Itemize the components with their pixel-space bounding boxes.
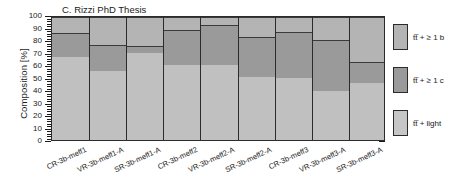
y-tick-label: 90 xyxy=(16,24,42,33)
chart-legend: tt̅ + ≥ 1 btt̅ + ≥ 1 ctt̅ + light xyxy=(393,18,454,144)
legend-item: tt̅ + light xyxy=(393,104,441,142)
bar-segment xyxy=(313,17,349,40)
y-tick-label: 40 xyxy=(16,86,42,95)
bar-segment xyxy=(127,53,163,141)
bar-column xyxy=(52,17,89,140)
bar-segment xyxy=(276,17,312,32)
y-tick-mark-right xyxy=(379,141,385,142)
legend-label: tt̅ + ≥ 1 b xyxy=(413,33,444,42)
legend-swatch xyxy=(393,110,408,136)
legend-label: tt̅ + ≥ 1 c xyxy=(413,76,444,85)
chart-title: C. Rizzi PhD Thesis xyxy=(62,4,146,15)
y-tick-label: 10 xyxy=(16,124,42,133)
y-tick-label: 60 xyxy=(16,61,42,70)
bar-segment xyxy=(350,17,385,62)
y-tick-label: 0 xyxy=(16,136,42,145)
bar-segment xyxy=(127,17,163,46)
bar-column xyxy=(89,17,126,140)
y-axis-label: Composition [%] xyxy=(18,14,29,154)
bar-column xyxy=(349,17,385,140)
legend-swatch xyxy=(393,24,408,50)
bar-segment xyxy=(350,62,385,83)
y-tick-mark xyxy=(45,141,51,142)
bar-column xyxy=(275,17,312,140)
bar-segment xyxy=(201,65,237,142)
bar-segment xyxy=(201,17,237,25)
legend-item: tt̅ + ≥ 1 b xyxy=(393,18,444,56)
legend-label: tt̅ + light xyxy=(413,119,441,128)
bar-segment xyxy=(313,40,349,91)
bar-segment xyxy=(164,65,200,142)
bar-segment xyxy=(276,78,312,141)
bar-segment xyxy=(276,32,312,78)
bar-segment xyxy=(239,37,275,77)
legend-item: tt̅ + ≥ 1 c xyxy=(393,61,444,99)
y-tick-label: 70 xyxy=(16,49,42,58)
y-tick-label: 50 xyxy=(16,74,42,83)
y-tick-label: 100 xyxy=(16,11,42,20)
bar-segment xyxy=(164,30,200,65)
bar-segment xyxy=(127,46,163,54)
bar-segment xyxy=(164,17,200,30)
bar-segment xyxy=(52,33,89,57)
bar-segment xyxy=(350,83,385,141)
y-tick-label: 20 xyxy=(16,111,42,120)
bar-segment xyxy=(52,57,89,141)
legend-swatch xyxy=(393,67,408,93)
bar-column xyxy=(238,17,275,140)
bar-segment xyxy=(90,71,126,141)
bar-column xyxy=(126,17,163,140)
bar-column xyxy=(312,17,349,140)
bar-column xyxy=(163,17,200,140)
bar-segment xyxy=(90,45,126,71)
y-tick-label: 80 xyxy=(16,36,42,45)
bar-column xyxy=(200,17,237,140)
plot-area xyxy=(51,16,385,141)
bar-segment xyxy=(239,17,275,37)
bar-segment xyxy=(90,17,126,45)
bar-segment xyxy=(201,25,237,65)
bar-segment xyxy=(52,17,89,33)
y-tick-label: 30 xyxy=(16,99,42,108)
bar-segment xyxy=(313,91,349,141)
chart-figure: C. Rizzi PhD Thesis Composition [%] 0102… xyxy=(0,0,454,194)
bar-segment xyxy=(239,77,275,141)
